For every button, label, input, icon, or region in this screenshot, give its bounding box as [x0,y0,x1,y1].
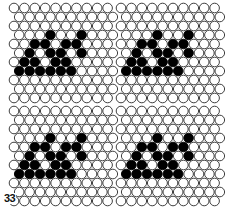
bead-filled [153,48,163,58]
bead-empty [179,57,189,67]
bead-filled [25,66,35,76]
bead-empty [189,57,199,67]
bead-empty [132,12,142,22]
bead-empty [103,178,113,188]
bead-empty [30,21,40,31]
bead-empty [14,84,24,94]
bead-empty [103,124,113,134]
bead-empty [30,75,40,85]
bead-empty [179,160,189,170]
bead-empty [158,75,168,85]
bead-empty [51,178,61,188]
bead-empty [77,84,87,94]
bead-empty [51,93,61,103]
bead-empty [205,115,215,125]
bead-empty [87,169,97,179]
bead-empty [9,57,19,67]
bead-empty [215,133,225,143]
bead-empty [92,160,102,170]
bead-filled [72,142,82,152]
bead-filled [46,66,56,76]
bead-empty [35,30,45,40]
bead-empty [72,21,82,31]
bead-empty [87,30,97,40]
bead-empty [210,39,220,49]
bead-filled [66,66,76,76]
bead-empty [142,133,152,143]
bead-filled [40,142,50,152]
bead-empty [168,106,178,116]
bead-empty [9,3,19,13]
bead-empty [77,169,87,179]
bead-filled [163,66,173,76]
bead-empty [179,178,189,188]
bead-empty [92,3,102,13]
bead-empty [137,124,147,134]
bead-empty [103,142,113,152]
bead-empty [194,12,204,22]
bead-empty [51,106,61,116]
bead-empty [98,187,108,197]
bead-empty [199,3,209,13]
bead-empty [82,75,92,85]
bead-empty [82,3,92,13]
bead-filled [56,48,66,58]
bead-empty [108,169,118,179]
bead-empty [189,21,199,31]
bead-empty [61,3,71,13]
bead-empty [40,21,50,31]
bead-empty [121,48,131,58]
bead-empty [20,124,30,134]
bead-filled [158,160,168,170]
bead-empty [9,142,19,152]
bead-empty [137,178,147,188]
bead-empty [103,160,113,170]
bead-empty [142,48,152,58]
bead-filled [127,160,137,170]
bead-empty [87,84,97,94]
bead-empty [215,169,225,179]
bead-empty [66,133,76,143]
bead-filled [30,57,40,67]
bead-filled [153,151,163,161]
bead-empty [87,133,97,143]
bead-filled [153,30,163,40]
bead-empty [168,178,178,188]
bead-empty [108,48,118,58]
bead-empty [127,39,137,49]
bead-empty [215,30,225,40]
bead-empty [72,3,82,13]
bead-empty [189,196,199,206]
bead-empty [173,48,183,58]
bead-empty [116,142,126,152]
bead-empty [210,124,220,134]
bead-empty [20,93,30,103]
bead-filled [173,169,183,179]
bead-empty [153,115,163,125]
bead-empty [56,187,66,197]
bead-empty [194,66,204,76]
bead-empty [179,93,189,103]
bead-empty [61,75,71,85]
bead-empty [215,12,225,22]
bead-empty [82,124,92,134]
bead-empty [137,21,147,31]
bead-empty [199,160,209,170]
bead-empty [20,39,30,49]
bead-empty [72,106,82,116]
bead-empty [153,12,163,22]
bead-empty [210,160,220,170]
bead-empty [158,124,168,134]
bead-filled [30,142,40,152]
bead-filled [77,151,87,161]
bead-empty [108,84,118,94]
bead-empty [66,30,76,40]
bead-empty [147,178,157,188]
bead-empty [82,39,92,49]
bead-empty [210,178,220,188]
bead-empty [184,12,194,22]
bead-empty [199,124,209,134]
bead-filled [56,66,66,76]
bead-empty [108,133,118,143]
bead-empty [116,178,126,188]
